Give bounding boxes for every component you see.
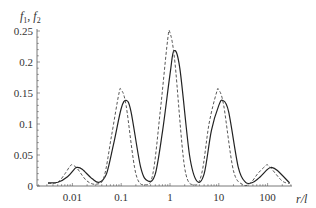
y-axis: 00.050.10.150.20.25 bbox=[14, 25, 40, 192]
x-tick-label: 100 bbox=[259, 191, 276, 203]
y-tick-label: 0 bbox=[28, 180, 34, 192]
chart: 00.050.10.150.20.25 0.010.1110100 f1, f2… bbox=[0, 0, 316, 208]
y-tick-label: 0.1 bbox=[19, 118, 33, 130]
y-tick-label: 0.25 bbox=[14, 25, 34, 37]
series-f2 bbox=[48, 30, 290, 186]
series-layer bbox=[48, 30, 290, 186]
y-axis-title: f1, f2 bbox=[20, 9, 41, 25]
x-tick-label: 0.1 bbox=[114, 191, 128, 203]
x-axis-title: r/l bbox=[296, 192, 308, 206]
x-axis: 0.010.1110100 bbox=[37, 183, 292, 203]
y-tick-label: 0.05 bbox=[14, 149, 34, 161]
x-tick-label: 0.01 bbox=[63, 191, 82, 203]
series-f1 bbox=[48, 51, 290, 184]
y-tick-label: 0.2 bbox=[19, 56, 33, 68]
x-tick-label: 1 bbox=[167, 191, 173, 203]
x-tick-label: 10 bbox=[213, 191, 225, 203]
y-tick-label: 0.15 bbox=[14, 87, 34, 99]
